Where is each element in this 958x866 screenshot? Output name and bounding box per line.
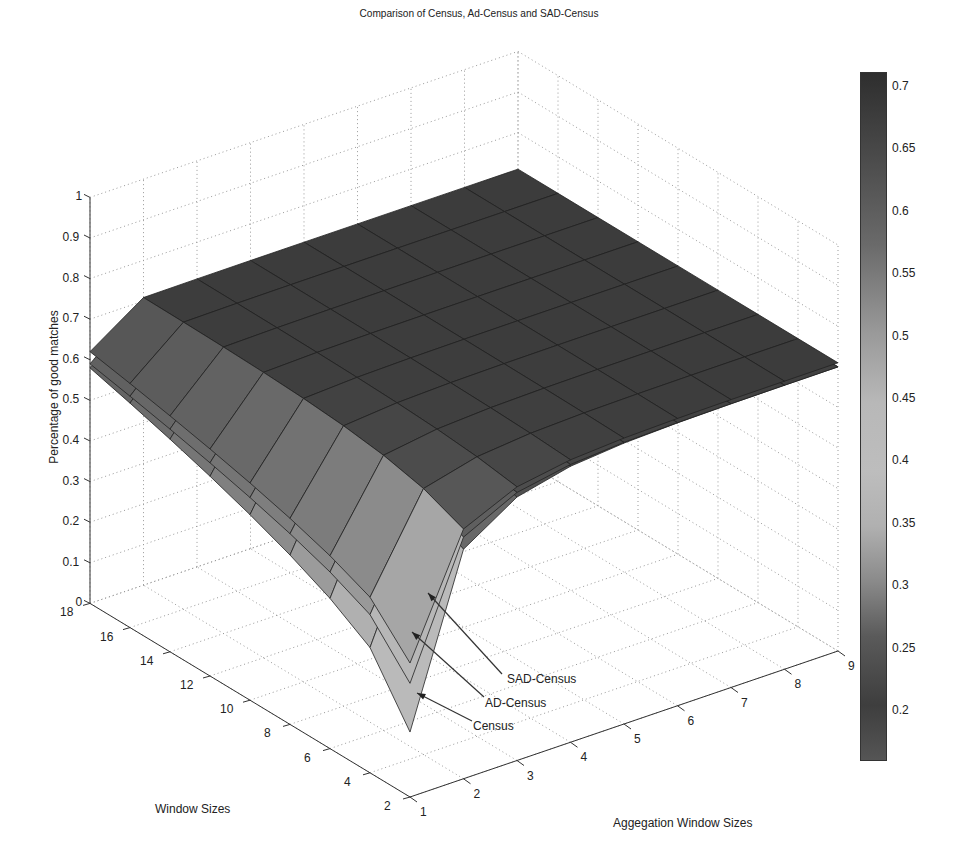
aggregation-tick: 6 [688,714,695,728]
window-size-tick: 10 [220,702,233,716]
window-sizes-axis-label: Window Sizes [155,802,230,816]
z-tick: 0.7 [63,311,80,325]
annotation-census: Census [473,719,514,733]
colorbar-tick: 0.5 [892,329,909,343]
annotation-sad-census: SAD-Census [507,672,576,686]
z-tick: 0.2 [63,514,80,528]
aggregation-axis-label: Aggegation Window Sizes [613,816,752,830]
colorbar-tick: 0.65 [892,141,915,155]
z-axis-label: Percentage of good matches [47,287,61,487]
aggregation-tick: 8 [795,677,802,691]
aggregation-tick: 2 [474,787,481,801]
window-size-tick: 2 [384,799,391,813]
surface-plot [0,0,958,866]
window-size-tick: 8 [264,726,271,740]
colorbar-tick: 0.35 [892,516,915,530]
colorbar-tick: 0.3 [892,578,909,592]
z-tick: 0.9 [63,230,80,244]
colorbar-tick: 0.6 [892,204,909,218]
colorbar-tick: 0.55 [892,266,915,280]
window-size-tick: 12 [180,678,193,692]
z-tick: 0.4 [63,433,80,447]
window-size-tick: 6 [304,751,311,765]
z-tick: 0 [76,595,83,609]
colorbar [860,72,887,761]
aggregation-tick: 3 [527,769,534,783]
colorbar-tick: 0.25 [892,641,915,655]
z-tick: 1 [76,189,83,203]
aggregation-tick: 9 [848,659,855,673]
aggregation-tick: 5 [634,732,641,746]
aggregation-tick: 4 [581,750,588,764]
z-tick: 0.1 [63,555,80,569]
aggregation-tick: 1 [420,805,427,819]
window-size-tick: 4 [344,775,351,789]
window-size-tick: 16 [100,630,113,644]
colorbar-tick: 0.2 [892,703,909,717]
colorbar-tick: 0.45 [892,391,915,405]
window-size-tick: 18 [60,605,73,619]
chart-figure: Comparison of Census, Ad-Census and SAD-… [0,0,958,866]
annotation-ad-census: AD-Census [485,696,546,710]
z-tick: 0.8 [63,271,80,285]
aggregation-tick: 7 [741,696,748,710]
z-tick: 0.6 [63,352,80,366]
window-size-tick: 14 [140,654,153,668]
z-tick: 0.5 [63,392,80,406]
colorbar-tick: 0.4 [892,453,909,467]
colorbar-tick: 0.7 [892,79,909,93]
z-tick: 0.3 [63,474,80,488]
